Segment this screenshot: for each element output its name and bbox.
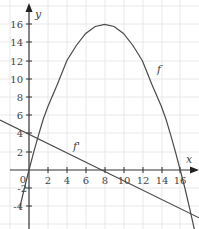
y-axis-arrow-icon	[26, 3, 33, 12]
y-tick-label: 12	[10, 56, 23, 67]
x-tick-label: 14	[156, 175, 169, 186]
y-tick-label: 16	[10, 19, 23, 30]
y-tick-label: 14	[10, 37, 23, 48]
axes	[10, 10, 192, 229]
y-tick-label: 2	[17, 147, 23, 158]
curve-f-prime-label: f'	[72, 140, 80, 153]
x-tick-label: 12	[137, 175, 150, 186]
y-axis-label: y	[34, 8, 42, 21]
y-tick-label: 6	[17, 110, 23, 121]
x-tick-label: 2	[45, 175, 51, 186]
x-axis-label: x	[186, 153, 193, 166]
y-tick-label: 8	[17, 92, 23, 103]
x-tick-label: 8	[102, 175, 108, 186]
x-tick-label: 6	[83, 175, 89, 186]
x-axis-arrow-icon	[190, 167, 199, 174]
function-graph: 2 4 6 8 10 12 14 16 16 14 12 10 8 6 4 2 …	[0, 0, 199, 229]
y-tick-label: 10	[10, 74, 23, 85]
x-tick-label: 4	[64, 175, 70, 186]
curve-f	[20, 24, 195, 229]
